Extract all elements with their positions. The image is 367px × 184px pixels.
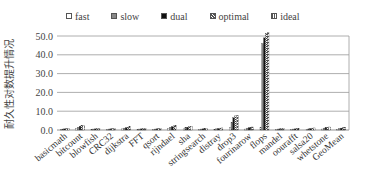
bar-ideal [206,128,208,130]
bar-fast [306,129,308,130]
bar-ideal [67,128,69,130]
bar-fast [106,129,108,130]
bar-optimal [158,128,160,130]
bar-fast [245,129,247,130]
y-axis-ticks: 0.010.020.030.040.050.0 [36,31,54,136]
bar-ideal [344,127,346,130]
bar-fast [91,129,93,130]
bar-slow [323,128,325,130]
bar-fast [137,129,139,130]
bar-optimal [281,128,283,130]
bar-slow [277,129,279,130]
bar-dual [156,129,158,130]
bar-ideal [83,125,85,130]
bar-ideal [283,128,285,130]
bar-fast [152,129,154,130]
bar-ideal [190,126,192,130]
bar-optimal [204,128,206,130]
bar-fast [76,128,78,130]
bar-ideal [175,125,177,130]
bar-fast [260,127,262,130]
bar-dual [294,129,296,130]
bar-fast [60,129,62,130]
bar-ideal [144,128,146,130]
y-tick-label: 50.0 [36,31,54,42]
bar-dual [125,128,127,130]
bar-ideal [113,128,115,130]
bar-ideal [267,32,269,130]
bar-optimal [127,127,129,130]
bar-dual [95,129,97,130]
bar-optimal [235,116,237,130]
bar-optimal [219,128,221,130]
x-axis-labels: basicmathbitcountblowfishCRC32dijkstraFF… [33,130,346,168]
bar-dual [325,128,327,130]
bar-dual [171,127,173,130]
bar-slow [139,129,141,130]
bar-optimal [81,126,83,130]
bar-optimal [142,128,144,130]
bar-slow [231,122,233,130]
chart-bars [60,32,346,130]
bar-slow [154,129,156,130]
y-tick-label: 20.0 [36,87,54,98]
bar-dual [187,127,189,130]
bar-ideal [252,127,254,130]
bar-slow [77,127,79,130]
bar-dual [141,129,143,130]
bar-optimal [296,128,298,130]
bar-slow [308,129,310,130]
bar-fast [199,129,201,130]
bar-fast [291,129,293,130]
bar-dual [340,128,342,130]
bar-dual [79,126,81,130]
bar-slow [185,128,187,130]
bar-optimal [96,128,98,130]
bar-ideal [329,127,331,130]
y-axis-label: 耐久性对数提升情况 [3,39,15,129]
bar-optimal [342,128,344,130]
bar-dual [233,118,235,130]
bar-ideal [236,115,238,130]
bar-dual [64,129,66,130]
bar-slow [200,129,202,130]
bar-ideal [160,128,162,130]
y-tick-label: 40.0 [36,49,54,60]
bar-slow [339,128,341,130]
bar-dual [110,129,112,130]
bar-dual [310,128,312,130]
bar-dual [279,129,281,130]
bar-slow [170,127,172,130]
bar-slow [123,128,125,130]
bar-optimal [173,126,175,130]
bar-fast [168,128,170,130]
y-tick-label: 10.0 [36,106,54,117]
bar-optimal [66,128,68,130]
bar-dual [248,128,250,130]
bar-fast [229,128,231,130]
bar-chart: 0.010.020.030.040.050.0 basicmathbitcoun… [0,0,367,184]
bar-optimal [250,127,252,130]
bar-fast [183,129,185,130]
bar-slow [93,129,95,130]
bar-dual [264,38,266,130]
y-tick-label: 30.0 [36,68,54,79]
bar-ideal [313,128,315,130]
bar-optimal [327,127,329,130]
bar-optimal [112,128,114,130]
bar-fast [321,129,323,130]
bar-fast [337,129,339,130]
bar-dual [202,129,204,130]
bar-optimal [189,127,191,130]
bar-ideal [129,127,131,130]
chart-grid [57,36,349,130]
bar-optimal [265,33,267,130]
bar-slow [62,129,64,130]
bar-fast [214,129,216,130]
bar-fast [275,129,277,130]
bar-slow [262,44,264,130]
bar-fast [122,129,124,130]
bar-ideal [221,128,223,130]
y-tick-label: 0.0 [41,125,54,136]
bar-ideal [98,128,100,130]
